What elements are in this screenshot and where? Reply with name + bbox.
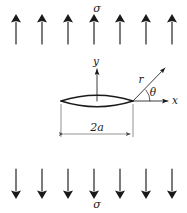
top-stress-label: σ: [93, 2, 101, 15]
figure-canvas: σ 2a y x r θ: [0, 0, 187, 213]
y-axis-label: y: [92, 55, 100, 67]
fracture-mechanics-figure: σ 2a y x r θ: [0, 0, 187, 213]
theta-label: θ: [150, 86, 157, 98]
x-axis-label: x: [172, 94, 178, 106]
bottom-stress-label: σ: [93, 198, 101, 211]
crack-length-label: 2a: [89, 121, 104, 134]
